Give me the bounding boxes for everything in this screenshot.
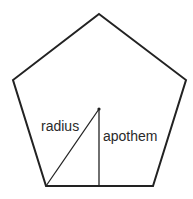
- center-point: [97, 107, 100, 110]
- radius-label: radius: [41, 118, 79, 134]
- apothem-label: apothem: [103, 128, 157, 144]
- pentagon-diagram: radius apothem: [0, 0, 193, 199]
